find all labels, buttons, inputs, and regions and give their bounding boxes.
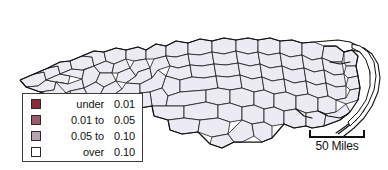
legend-item-over-0-10: over 0.10 bbox=[23, 144, 142, 160]
map-legend: under 0.01 0.01 to 0.05 0.05 to 0.10 ove… bbox=[22, 93, 143, 162]
scalebar-label: 50 Miles bbox=[299, 139, 375, 153]
scalebar-tick-right bbox=[363, 130, 365, 138]
legend-swatch-0-05-to-0-10 bbox=[31, 131, 41, 141]
legend-rows: under 0.01 0.01 to 0.05 0.05 to 0.10 ove… bbox=[23, 94, 142, 160]
legend-value-0-05: 0.05 bbox=[110, 114, 135, 126]
scalebar-graphic bbox=[309, 130, 365, 138]
map-scalebar: 50 Miles bbox=[299, 130, 375, 153]
legend-swatch-over-0-10 bbox=[31, 147, 41, 157]
legend-label-over: over bbox=[41, 146, 110, 158]
legend-label-under: under bbox=[41, 98, 110, 110]
legend-label-0-01-to: 0.01 to bbox=[41, 114, 110, 126]
scalebar-line bbox=[309, 136, 365, 138]
legend-label-0-05-to: 0.05 to bbox=[41, 130, 110, 142]
legend-item-0-05-to-0-10: 0.05 to 0.10 bbox=[23, 128, 142, 144]
legend-value-0-10-upper: 0.10 bbox=[110, 130, 135, 142]
map-figure: under 0.01 0.01 to 0.05 0.05 to 0.10 ove… bbox=[0, 0, 388, 170]
legend-item-0-01-to-0-05: 0.01 to 0.05 bbox=[23, 112, 142, 128]
legend-value-0-01: 0.01 bbox=[110, 98, 135, 110]
legend-item-under-0-01: under 0.01 bbox=[23, 96, 142, 112]
legend-value-0-10-over: 0.10 bbox=[110, 146, 135, 158]
legend-swatch-under-0-01 bbox=[31, 99, 41, 109]
legend-swatch-0-01-to-0-05 bbox=[31, 115, 41, 125]
